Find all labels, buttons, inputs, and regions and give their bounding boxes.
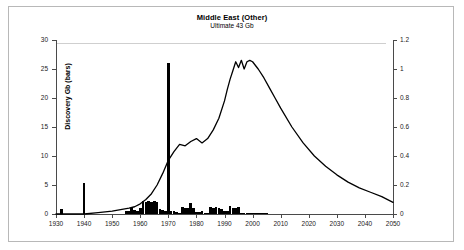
x-tick-label: 2050 (380, 220, 406, 227)
x-tick-mark (253, 214, 254, 218)
right-tick-label: 0.2 (400, 181, 424, 188)
x-tick-label: 2030 (324, 220, 350, 227)
left-tick-label: 10 (26, 152, 48, 159)
x-tick-mark (225, 214, 226, 218)
x-tick-mark (365, 214, 366, 218)
right-tick-mark (393, 156, 397, 157)
x-tick-mark (140, 214, 141, 218)
x-tick-mark (393, 214, 394, 218)
right-tick-label: 0 (400, 210, 424, 217)
left-tick-label: 30 (26, 36, 48, 43)
chart-subtitle: Ultimate 43 Gb (9, 22, 455, 29)
right-tick-label: 0.4 (400, 152, 424, 159)
chart-frame: Middle East (Other) Ultimate 43 Gb Disco… (8, 6, 454, 242)
right-tick-label: 1 (400, 65, 424, 72)
right-tick-mark (393, 185, 397, 186)
left-tick-label: 20 (26, 94, 48, 101)
left-tick-label: 0 (26, 210, 48, 217)
left-tick-label: 15 (26, 123, 48, 130)
left-tick-label: 25 (26, 65, 48, 72)
right-tick-mark (393, 127, 397, 128)
x-tick-label: 1930 (43, 220, 69, 227)
x-tick-mark (168, 214, 169, 218)
right-tick-mark (393, 98, 397, 99)
x-tick-label: 1990 (212, 220, 238, 227)
x-tick-label: 2000 (240, 220, 266, 227)
x-tick-mark (112, 214, 113, 218)
production-curve (56, 40, 393, 214)
x-tick-label: 1980 (183, 220, 209, 227)
right-tick-label: 0.8 (400, 94, 424, 101)
right-tick-mark (393, 69, 397, 70)
right-tick-mark (393, 40, 397, 41)
x-tick-label: 2010 (268, 220, 294, 227)
x-tick-label: 2040 (352, 220, 378, 227)
right-tick-label: 0.6 (400, 123, 424, 130)
right-tick-label: 1.2 (400, 36, 424, 43)
x-tick-mark (281, 214, 282, 218)
x-tick-label: 1970 (155, 220, 181, 227)
plot-area (56, 40, 393, 214)
x-tick-label: 1960 (127, 220, 153, 227)
x-tick-label: 1950 (99, 220, 125, 227)
left-tick-label: 5 (26, 181, 48, 188)
x-tick-mark (309, 214, 310, 218)
x-tick-label: 1940 (71, 220, 97, 227)
x-tick-label: 2020 (296, 220, 322, 227)
x-tick-mark (196, 214, 197, 218)
x-tick-mark (337, 214, 338, 218)
chart-title: Middle East (Other) (9, 13, 455, 22)
